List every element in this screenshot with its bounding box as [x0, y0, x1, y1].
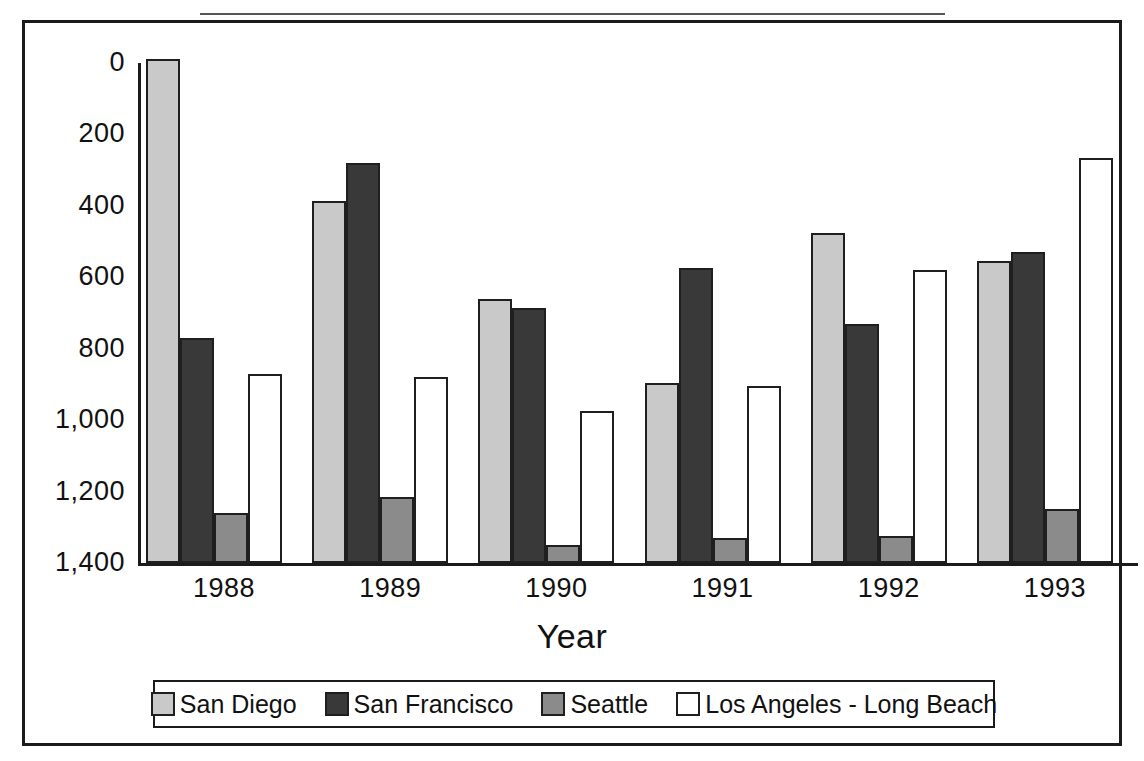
x-axis-tick-label: 1993 — [972, 575, 1138, 602]
chart-page: 02004006008001,0001,2001,400 19881989199… — [0, 0, 1144, 761]
figure-frame: 02004006008001,0001,2001,400 19881989199… — [22, 20, 1122, 746]
legend-label: Seattle — [570, 692, 648, 717]
y-axis-tick-label: 200 — [25, 120, 125, 147]
legend-label: San Diego — [180, 692, 297, 717]
x-axis-tick-label: 1990 — [473, 575, 639, 602]
bar-group — [972, 63, 1138, 563]
legend-swatch-icon — [325, 692, 349, 716]
legend-label: San Francisco — [354, 692, 514, 717]
bar[interactable] — [811, 233, 845, 563]
bar-group — [640, 63, 806, 563]
y-axis-tick-label: 400 — [25, 192, 125, 219]
bar[interactable] — [180, 338, 214, 563]
bar[interactable] — [913, 270, 947, 563]
plot-wrapper: 02004006008001,0001,2001,400 19881989199… — [25, 23, 1119, 743]
y-axis-tick-label: 1,000 — [25, 406, 125, 433]
chart-legend: San DiegoSan FranciscoSeattleLos Angeles… — [153, 680, 995, 728]
bar[interactable] — [346, 163, 380, 563]
bar-group — [307, 63, 473, 563]
legend-swatch-icon — [676, 692, 700, 716]
bar[interactable] — [1079, 158, 1113, 563]
bar[interactable] — [380, 497, 414, 563]
bar[interactable] — [747, 386, 781, 563]
plot-area — [141, 63, 1138, 563]
y-axis-tick-label: 600 — [25, 263, 125, 290]
bar[interactable] — [214, 513, 248, 563]
y-axis-tick-label: 1,400 — [25, 549, 125, 576]
bar[interactable] — [977, 261, 1011, 563]
x-axis-tick-label: 1989 — [307, 575, 473, 602]
bar[interactable] — [146, 59, 180, 563]
bar-group — [806, 63, 972, 563]
bar[interactable] — [713, 538, 747, 563]
y-axis-tick-label: 800 — [25, 335, 125, 362]
bar[interactable] — [580, 411, 614, 563]
legend-swatch-icon — [151, 692, 175, 716]
bar[interactable] — [845, 324, 879, 563]
bar[interactable] — [546, 545, 580, 563]
bar[interactable] — [248, 374, 282, 563]
bar[interactable] — [478, 299, 512, 563]
legend-label: Los Angeles - Long Beach — [705, 692, 997, 717]
bar[interactable] — [1045, 509, 1079, 563]
legend-item[interactable]: San Francisco — [325, 692, 514, 717]
x-axis-tick-label: 1992 — [806, 575, 972, 602]
bar[interactable] — [679, 268, 713, 563]
bar-group — [473, 63, 639, 563]
x-axis-line — [138, 563, 1138, 566]
y-axis-tick-label: 0 — [25, 49, 125, 76]
x-axis-title: Year — [25, 617, 1119, 656]
bar[interactable] — [414, 377, 448, 563]
x-axis-tick-label: 1991 — [640, 575, 806, 602]
bar[interactable] — [645, 383, 679, 563]
legend-swatch-icon — [541, 692, 565, 716]
legend-item[interactable]: San Diego — [151, 692, 297, 717]
legend-item[interactable]: Los Angeles - Long Beach — [676, 692, 997, 717]
legend-item[interactable]: Seattle — [541, 692, 648, 717]
bar[interactable] — [312, 201, 346, 564]
bar[interactable] — [1011, 252, 1045, 563]
bar[interactable] — [512, 308, 546, 563]
bar[interactable] — [879, 536, 913, 563]
page-top-rule — [200, 13, 945, 15]
bar-group — [141, 63, 307, 563]
x-axis-tick-label: 1988 — [141, 575, 307, 602]
y-axis-tick-label: 1,200 — [25, 478, 125, 505]
